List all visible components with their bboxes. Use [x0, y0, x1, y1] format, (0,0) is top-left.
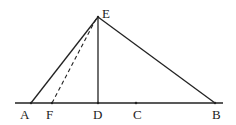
label-A: A — [20, 107, 30, 122]
label-C: C — [133, 107, 142, 122]
diagram-canvas: E A F D C B — [0, 0, 236, 125]
point-C — [135, 102, 138, 105]
point-E — [97, 16, 99, 18]
segment-EB — [98, 17, 215, 103]
segment-AE — [31, 17, 98, 103]
point-B — [214, 102, 216, 104]
label-D: D — [93, 107, 102, 122]
point-A — [30, 102, 32, 104]
label-E: E — [102, 6, 110, 21]
segment-FE-dashed — [52, 19, 96, 103]
label-F: F — [46, 107, 53, 122]
point-F — [51, 102, 53, 104]
point-D — [97, 102, 99, 104]
geometry-figure: E A F D C B — [0, 0, 236, 125]
label-B: B — [212, 107, 221, 122]
